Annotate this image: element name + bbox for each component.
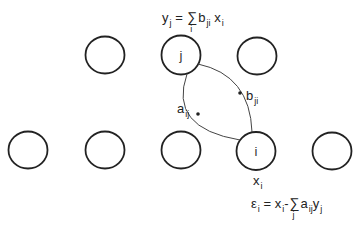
node-bottom-5 — [313, 133, 352, 170]
edge-b-label: bji — [246, 89, 258, 106]
edge-b-arrow-dot — [238, 91, 242, 95]
node-i-label: i — [255, 144, 258, 159]
node-top-left — [86, 37, 125, 74]
node-j-label: j — [180, 48, 183, 63]
node-i-variable: xi — [253, 174, 263, 191]
bottom-equation: εi = xi-∑jaijyj — [251, 196, 322, 214]
edge-a-arrow-dot — [196, 112, 200, 116]
edge-a-label: aij — [177, 102, 189, 119]
node-bottom-3 — [162, 132, 201, 169]
node-bottom-1 — [9, 132, 48, 169]
top-equation: yj = ∑ibji xi — [162, 10, 224, 28]
edge-a-ij — [183, 74, 240, 140]
node-top-right — [238, 38, 277, 75]
node-bottom-2 — [86, 132, 125, 169]
edge-b-ji — [198, 64, 252, 132]
